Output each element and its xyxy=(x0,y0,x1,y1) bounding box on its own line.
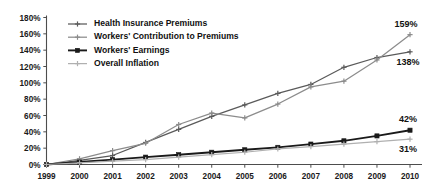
series-line-0 xyxy=(47,52,411,165)
data-point xyxy=(374,139,379,144)
y-axis-tick-label: 160% xyxy=(20,30,42,39)
data-point xyxy=(242,102,247,107)
x-axis-tick-label: 2010 xyxy=(401,172,420,181)
data-point xyxy=(408,128,412,132)
data-point xyxy=(275,101,280,106)
series-end-label: 31% xyxy=(399,144,417,154)
data-point xyxy=(209,110,214,115)
y-axis-tick-label: 0% xyxy=(29,161,42,170)
series-end-label: 159% xyxy=(394,19,417,29)
x-axis-tick-label: 2008 xyxy=(335,172,354,181)
legend-marker-icon xyxy=(75,48,79,52)
legend-marker-icon xyxy=(75,35,80,40)
x-axis-tick-label: 2003 xyxy=(170,172,189,181)
x-axis-tick-label: 2006 xyxy=(269,172,288,181)
x-axis-tick-label: 2009 xyxy=(368,172,387,181)
x-axis-tick-label: 2007 xyxy=(302,172,321,181)
data-point xyxy=(176,122,181,127)
legend-label: Workers' Earnings xyxy=(94,45,170,55)
data-point xyxy=(110,148,115,153)
legend-label: Health Insurance Premiums xyxy=(94,18,207,28)
line-chart: 0%20%40%60%80%100%120%140%160%180%199920… xyxy=(0,0,435,190)
x-axis-tick-label: 2001 xyxy=(103,172,122,181)
y-axis-tick-label: 60% xyxy=(24,112,41,121)
data-point xyxy=(341,65,346,70)
data-point xyxy=(242,115,247,120)
legend-label: Overall Inflation xyxy=(94,58,159,68)
data-point xyxy=(176,127,181,132)
data-point xyxy=(407,137,412,142)
y-axis-tick-label: 140% xyxy=(20,46,42,55)
series-end-label: 42% xyxy=(399,114,417,124)
legend-marker-icon xyxy=(75,21,80,26)
series-line-2 xyxy=(47,130,411,164)
x-axis-tick-label: 2002 xyxy=(137,172,156,181)
x-axis-tick-label: 2004 xyxy=(203,172,222,181)
x-axis-tick-label: 2000 xyxy=(70,172,89,181)
y-axis-tick-label: 40% xyxy=(24,128,41,137)
legend-label: Workers' Contribution to Premiums xyxy=(94,31,239,41)
x-axis-tick-label: 2005 xyxy=(236,172,255,181)
y-axis-tick-label: 20% xyxy=(24,144,41,153)
x-axis-tick-label: 1999 xyxy=(37,172,56,181)
y-axis-tick-label: 100% xyxy=(20,79,42,88)
series-end-label: 138% xyxy=(396,57,419,67)
chart-container: 0%20%40%60%80%100%120%140%160%180%199920… xyxy=(0,0,435,190)
data-point xyxy=(407,49,412,54)
y-axis-tick-label: 120% xyxy=(20,63,42,72)
legend-marker-icon xyxy=(75,61,80,66)
y-axis-tick-label: 180% xyxy=(20,14,42,23)
data-point xyxy=(275,91,280,96)
data-point xyxy=(375,134,379,138)
y-axis-tick-label: 80% xyxy=(24,95,41,104)
